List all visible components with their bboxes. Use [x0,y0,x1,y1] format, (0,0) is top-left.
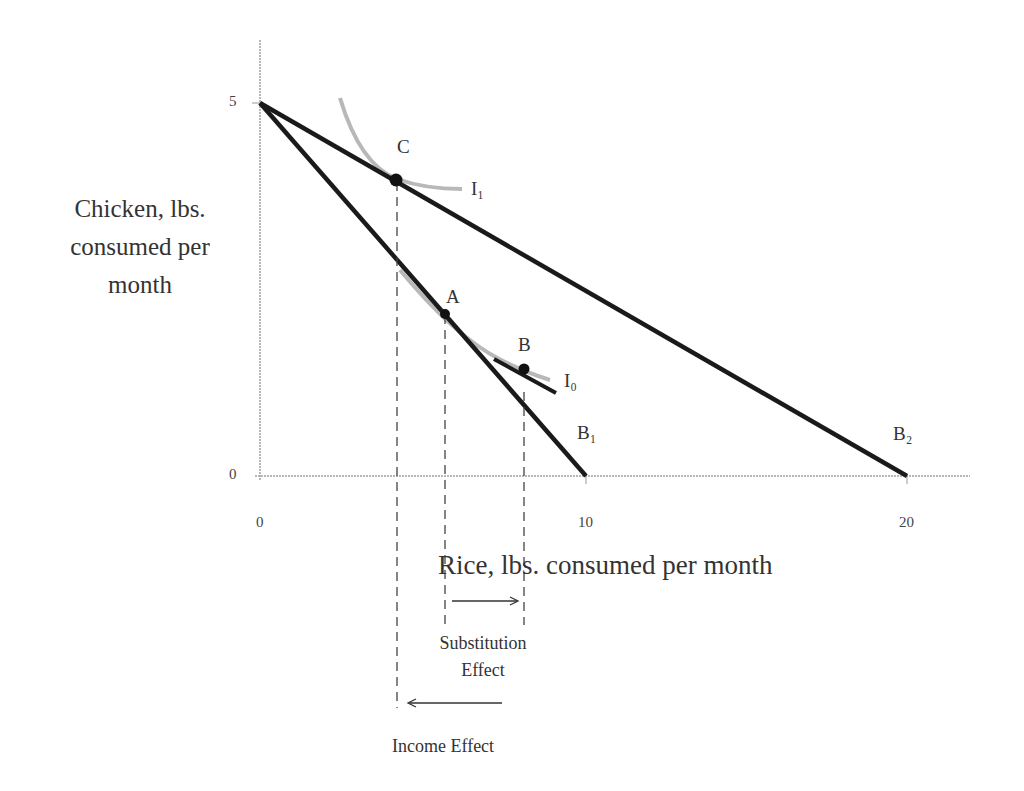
budget-line-b1 [260,103,586,476]
point-label-a: A [446,286,460,308]
x-tick-label-20: 20 [899,514,914,531]
substitution-effect-line-2: Effect [418,657,548,684]
curve-label-b1: B₁ [577,422,596,444]
x-axis-label: Rice, lbs. consumed per month [438,550,772,581]
y-axis-label-line-2: consumed per [40,228,240,266]
income-effect-label: Income Effect [392,733,494,760]
income-arrow [408,699,502,707]
curve-label-b2: B₂ [893,423,912,445]
point-label-c: C [397,136,410,158]
curve-label-i0: I₀ [564,370,577,392]
budget-line-b2 [260,103,907,476]
y-axis-label-line-1: Chicken, lbs. [40,190,240,228]
x-tick-label-0: 0 [256,514,264,531]
curve-label-i1: I₁ [471,178,484,200]
point-a [440,309,450,319]
point-label-b: B [518,334,531,356]
y-axis-label-line-3: month [40,266,240,304]
x-tick-label-10: 10 [578,514,593,531]
substitution-effect-label: Substitution Effect [418,630,548,684]
substitution-arrow [452,597,518,605]
substitution-effect-line-1: Substitution [418,630,548,657]
point-b [519,364,530,375]
point-c [390,174,403,187]
y-tick-label-5: 5 [229,93,237,110]
y-tick-label-0: 0 [229,466,237,483]
y-axis-label: Chicken, lbs. consumed per month [40,190,240,304]
